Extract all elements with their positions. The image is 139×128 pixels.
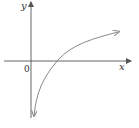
origin-label: 0 — [24, 64, 30, 74]
x-axis-label: x — [119, 61, 125, 72]
log-curve-arrow-top — [58, 32, 119, 60]
log-curve — [34, 32, 118, 116]
y-axis-label: y — [20, 0, 27, 11]
function-graph: y 0 x — [0, 0, 139, 128]
